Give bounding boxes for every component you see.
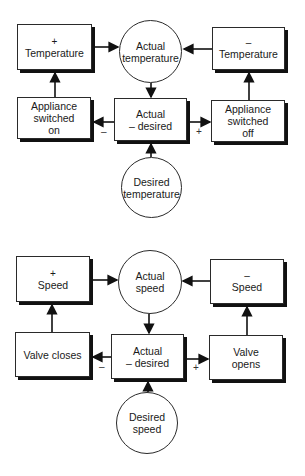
node-label: off: [242, 127, 253, 139]
node-label: switched: [228, 115, 269, 127]
node-label: Appliance: [31, 100, 77, 112]
node-label: speed: [133, 423, 162, 435]
actual-temperature-circle: Actual temperature: [119, 20, 182, 83]
decrease-temperature-box: – Temperature: [212, 27, 285, 70]
node-label: opens: [232, 358, 261, 370]
positive-edge-label: +: [196, 127, 202, 137]
node-label: Actual: [133, 345, 162, 357]
node-label: speed: [136, 282, 165, 294]
increase-temperature-box: + Temperature: [17, 24, 92, 70]
node-label: Valve closes: [23, 349, 81, 361]
increase-speed-box: + Speed: [16, 256, 90, 302]
valve-closes-box: Valve closes: [15, 332, 90, 377]
node-label: temperature: [123, 188, 180, 200]
valve-opens-box: Valve opens: [209, 335, 283, 380]
node-label: Desired: [129, 411, 165, 423]
appliance-switched-off-box: Appliance switched off: [211, 100, 285, 142]
node-label: Temperature: [219, 48, 278, 60]
desired-temperature-circle: Desired temperature: [121, 157, 182, 218]
comparator-box: Actual – desired: [111, 334, 184, 379]
desired-speed-circle: Desired speed: [116, 392, 178, 454]
node-label: – desired: [126, 357, 169, 369]
positive-edge-label: +: [193, 363, 199, 373]
node-label: Actual: [136, 40, 165, 52]
node-label: – desired: [129, 120, 172, 132]
minus-sign: –: [244, 270, 250, 281]
minus-sign: –: [246, 37, 252, 48]
decrease-speed-box: – Speed: [210, 259, 284, 304]
node-label: temperature: [122, 52, 179, 64]
node-label: switched: [34, 112, 75, 124]
negative-edge-label: –: [101, 127, 107, 137]
node-label: Appliance: [225, 103, 271, 115]
plus-sign: +: [52, 36, 58, 47]
node-label: Speed: [232, 281, 262, 293]
appliance-switched-on-box: Appliance switched on: [17, 97, 91, 139]
node-label: on: [48, 124, 60, 136]
node-label: Valve: [233, 346, 259, 358]
negative-edge-label: –: [99, 362, 105, 372]
node-label: Desired: [133, 176, 169, 188]
node-label: Speed: [38, 279, 68, 291]
comparator-box: Actual – desired: [114, 98, 187, 141]
node-label: Actual: [135, 270, 164, 282]
actual-speed-circle: Actual speed: [118, 250, 182, 314]
plus-sign: +: [50, 268, 56, 279]
node-label: Actual: [136, 108, 165, 120]
node-label: Temperature: [25, 47, 84, 59]
